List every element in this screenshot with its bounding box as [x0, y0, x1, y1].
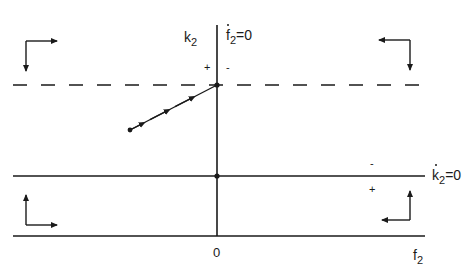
horizontal-axis-label: f2: [413, 248, 423, 266]
k-dot-equals-zero: =0: [445, 167, 461, 183]
equilibrium-point-lower: [214, 173, 219, 178]
equilibrium-point-upper: [214, 82, 219, 87]
f-dot-symbol: f: [226, 28, 230, 42]
f2-dot-right-sign: -: [226, 62, 230, 73]
direction-arrows-bottom-right: [382, 191, 410, 220]
vertical-axis-label: k2: [184, 30, 197, 48]
direction-arrows-bottom-left: [26, 195, 57, 225]
k2-dot-zero-label: k2=0: [432, 168, 461, 186]
origin-label: 0: [213, 246, 220, 259]
k-dot-symbol: k: [432, 168, 439, 182]
direction-arrows-top-left: [26, 41, 57, 71]
saddle-path: [128, 85, 217, 132]
direction-arrows-top-right: [379, 40, 410, 70]
k-symbol: k: [184, 29, 191, 45]
f-dot-equals-zero: =0: [236, 27, 252, 43]
k2-dot-above-sign: -: [370, 158, 374, 169]
phase-diagram: k2 f2=0 + - k2=0 - + 0 f2: [0, 0, 471, 272]
f2-dot-zero-label: f2=0: [226, 28, 252, 46]
saddle-path-start-point: [128, 128, 133, 133]
k-subscript: 2: [191, 36, 197, 48]
f2-dot-left-sign: +: [204, 62, 210, 73]
f-subscript: 2: [417, 254, 423, 266]
k2-dot-below-sign: +: [369, 184, 375, 195]
